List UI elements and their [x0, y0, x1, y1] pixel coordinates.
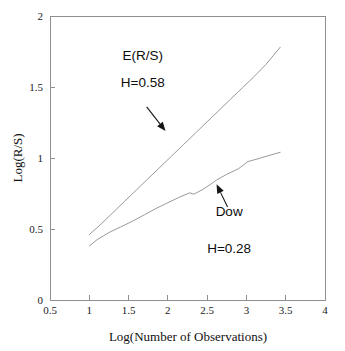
x-tick-label: 2 [165, 304, 171, 316]
ers-annotation-line-2: H=0.58 [121, 75, 165, 90]
dow-annotation-line-2: H=0.28 [207, 241, 251, 256]
y-tick-label: 2 [38, 10, 44, 22]
y-tick-label: 0.5 [29, 223, 43, 235]
x-tick-label: 3.5 [279, 304, 293, 316]
x-tick-label: 2.5 [200, 304, 214, 316]
y-axis-title: Log(R/S) [10, 133, 25, 182]
ers-annotation-line-1: E(R/S) [122, 48, 163, 63]
x-tick-label: 4 [322, 304, 328, 316]
ers-annotation-leader-line [147, 107, 160, 124]
y-axis-tick-labels: 00.511.52 [29, 10, 43, 306]
x-tick-label: 1.5 [122, 304, 136, 316]
series-line-e-r-s [89, 47, 280, 234]
x-axis-tick-marks [50, 295, 325, 300]
dow-annotation-line-1: Dow [216, 204, 243, 219]
y-tick-label: 1 [38, 152, 44, 164]
x-axis-title: Log(Number of Observations) [109, 329, 267, 344]
ers-annotation-arrowhead-icon [157, 122, 165, 131]
dow-annotation-arrowhead-icon [217, 184, 224, 194]
data-series-lines [89, 47, 280, 246]
y-tick-label: 0 [38, 294, 44, 306]
plot-frame [50, 16, 325, 300]
rescaled-range-log-log-plot: 0.511.522.533.54 00.511.52 E(R/S)H=0.58D… [0, 0, 345, 351]
series-line-dow [89, 152, 280, 246]
y-tick-label: 1.5 [29, 81, 43, 93]
x-tick-label: 0.5 [43, 304, 57, 316]
axes-box [50, 16, 325, 300]
x-tick-label: 3 [244, 304, 250, 316]
x-tick-label: 1 [87, 304, 93, 316]
x-axis-tick-labels: 0.511.522.533.54 [43, 304, 328, 316]
y-axis-tick-marks [50, 16, 55, 300]
chart-figure: 0.511.522.533.54 00.511.52 E(R/S)H=0.58D… [0, 0, 345, 351]
chart-annotations: E(R/S)H=0.58DowH=0.28 [121, 48, 251, 256]
